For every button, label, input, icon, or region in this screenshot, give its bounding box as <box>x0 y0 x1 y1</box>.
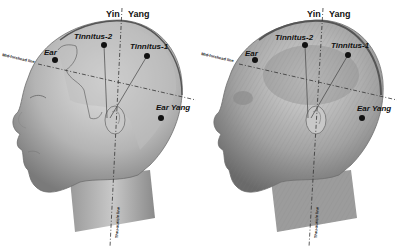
yang-label: Yang <box>329 9 351 19</box>
tinnitus-2-label: Tinnitus-2 <box>275 33 313 42</box>
tinnitus-2-point <box>302 42 308 48</box>
surface-head-panel: Yin Yang Tinnitus-2 Tinnitus-1 Ear Ear Y… <box>0 0 199 247</box>
yang-label: Yang <box>128 9 150 19</box>
ear-yang-point <box>359 115 365 121</box>
tinnitus-1-label: Tinnitus-1 <box>130 42 168 51</box>
tinnitus-1-point <box>144 53 150 59</box>
tinnitus-1-label: Tinnitus-1 <box>331 41 369 50</box>
ear-yang-label: Ear Yang <box>357 104 391 113</box>
tinnitus-2-label: Tinnitus-2 <box>74 32 112 41</box>
ear-yang-point <box>158 115 164 121</box>
ear-yang-label: Ear Yang <box>156 103 190 112</box>
yin-label: Yin <box>307 9 321 19</box>
muscle-head-panel: Yin Yang Tinnitus-2 Tinnitus-1 Ear Ear Y… <box>199 0 398 247</box>
ear-label: Ear <box>245 49 258 58</box>
yin-label: Yin <box>106 9 120 19</box>
tinnitus-2-point <box>101 42 107 48</box>
tinnitus-1-point <box>345 52 351 58</box>
ear-label: Ear <box>44 48 57 57</box>
ear-point <box>52 57 58 63</box>
